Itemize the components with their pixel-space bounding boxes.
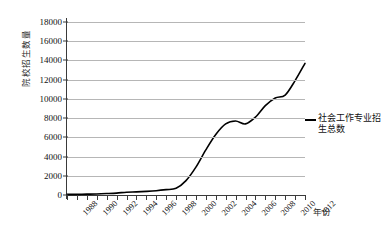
gridline	[67, 137, 305, 138]
x-tick-label: 1992	[121, 199, 139, 217]
x-tick-label: 1996	[160, 199, 178, 217]
y-axis-tick-labels: 1800016000140001200010000800060004000200…	[16, 0, 62, 246]
y-tick-label: 4000	[16, 152, 62, 161]
x-tick-mark	[305, 195, 306, 200]
x-tick-label: 2002	[220, 199, 238, 217]
gridline	[67, 176, 305, 177]
y-tick-label: 12000	[16, 75, 62, 84]
gridline	[67, 157, 305, 158]
y-tick-mark	[63, 22, 68, 23]
plot-area	[67, 22, 305, 195]
legend-line-swatch-icon	[305, 115, 316, 124]
x-tick-label: 2006	[259, 199, 277, 217]
legend-label: 社会工作专业招生总数	[318, 113, 382, 135]
y-tick-label: 2000	[16, 171, 62, 180]
y-tick-mark	[63, 137, 68, 138]
x-tick-label: 1988	[81, 199, 99, 217]
gridline	[67, 41, 305, 42]
y-tick-label: 0	[16, 191, 62, 200]
line-chart: 院校招生数量 180001600014000120001000080006000…	[0, 0, 386, 246]
y-tick-mark	[63, 156, 68, 157]
y-tick-mark	[63, 41, 68, 42]
y-tick-label: 6000	[16, 133, 62, 142]
gridline	[67, 22, 305, 23]
x-tick-label: 2004	[240, 199, 258, 217]
y-tick-mark	[63, 118, 68, 119]
x-tick-label: 2000	[200, 199, 218, 217]
x-axis-tick-labels: 1988199019921994199619982000200220042006…	[67, 197, 305, 237]
gridline	[67, 118, 305, 119]
x-axis-title: 年份	[313, 205, 331, 217]
y-tick-mark	[63, 98, 68, 99]
y-tick-label: 8000	[16, 114, 62, 123]
x-tick-label: 1994	[140, 199, 158, 217]
series-line-social-work	[67, 22, 305, 195]
x-tick-label: 1998	[180, 199, 198, 217]
y-tick-mark	[63, 79, 68, 80]
y-tick-mark	[63, 175, 68, 176]
x-tick-label: 1990	[101, 199, 119, 217]
x-tick-label: 2008	[279, 199, 297, 217]
y-tick-mark	[63, 60, 68, 61]
y-tick-label: 18000	[16, 18, 62, 27]
y-tick-label: 14000	[16, 56, 62, 65]
legend: 社会工作专业招生总数	[305, 113, 386, 135]
gridline	[67, 99, 305, 100]
gridline	[67, 80, 305, 81]
gridline	[67, 60, 305, 61]
y-tick-label: 10000	[16, 94, 62, 103]
y-tick-label: 16000	[16, 37, 62, 46]
